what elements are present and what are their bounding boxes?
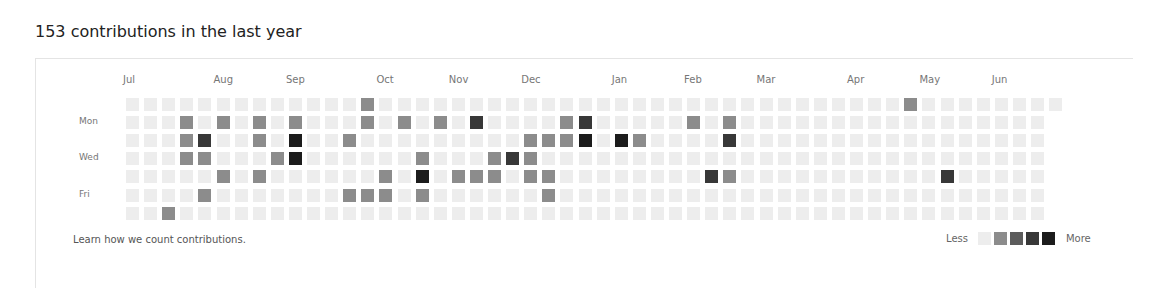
contribution-cell[interactable] <box>723 152 736 165</box>
contribution-cell[interactable] <box>524 189 537 202</box>
contribution-cell[interactable] <box>235 170 248 183</box>
contribution-cell[interactable] <box>579 152 592 165</box>
contribution-cell[interactable] <box>597 116 610 129</box>
contribution-cell[interactable] <box>144 116 157 129</box>
contribution-cell[interactable] <box>633 98 646 111</box>
contribution-cell[interactable] <box>687 189 700 202</box>
contribution-cell[interactable] <box>524 116 537 129</box>
contribution-cell[interactable] <box>760 207 773 220</box>
contribution-cell[interactable] <box>579 189 592 202</box>
contribution-cell[interactable] <box>850 98 863 111</box>
contribution-cell[interactable] <box>253 116 266 129</box>
contribution-cell[interactable] <box>253 134 266 147</box>
contribution-cell[interactable] <box>325 134 338 147</box>
contribution-cell[interactable] <box>651 116 664 129</box>
contribution-cell[interactable] <box>633 189 646 202</box>
contribution-cell[interactable] <box>922 116 935 129</box>
contribution-cell[interactable] <box>669 207 682 220</box>
contribution-cell[interactable] <box>904 134 917 147</box>
contribution-cell[interactable] <box>542 189 555 202</box>
contribution-cell[interactable] <box>977 98 990 111</box>
contribution-cell[interactable] <box>959 189 972 202</box>
contribution-cell[interactable] <box>977 116 990 129</box>
contribution-cell[interactable] <box>144 189 157 202</box>
contribution-cell[interactable] <box>633 170 646 183</box>
contribution-cell[interactable] <box>814 152 827 165</box>
contribution-cell[interactable] <box>796 207 809 220</box>
contribution-cell[interactable] <box>959 116 972 129</box>
contribution-cell[interactable] <box>416 189 429 202</box>
contribution-cell[interactable] <box>723 98 736 111</box>
contribution-cell[interactable] <box>398 170 411 183</box>
contribution-cell[interactable] <box>560 116 573 129</box>
contribution-cell[interactable] <box>434 207 447 220</box>
contribution-cell[interactable] <box>669 152 682 165</box>
contribution-cell[interactable] <box>289 98 302 111</box>
contribution-cell[interactable] <box>868 189 881 202</box>
contribution-cell[interactable] <box>741 98 754 111</box>
contribution-cell[interactable] <box>361 170 374 183</box>
contribution-cell[interactable] <box>506 134 519 147</box>
contribution-cell[interactable] <box>597 189 610 202</box>
contribution-cell[interactable] <box>687 152 700 165</box>
contribution-cell[interactable] <box>416 152 429 165</box>
contribution-cell[interactable] <box>995 189 1008 202</box>
contribution-cell[interactable] <box>470 189 483 202</box>
contribution-cell[interactable] <box>542 152 555 165</box>
contribution-cell[interactable] <box>615 207 628 220</box>
contribution-cell[interactable] <box>850 134 863 147</box>
contribution-cell[interactable] <box>524 207 537 220</box>
contribution-cell[interactable] <box>470 116 483 129</box>
contribution-cell[interactable] <box>633 152 646 165</box>
contribution-cell[interactable] <box>922 98 935 111</box>
contribution-cell[interactable] <box>253 207 266 220</box>
contribution-cell[interactable] <box>398 116 411 129</box>
contribution-cell[interactable] <box>126 98 139 111</box>
contribution-cell[interactable] <box>687 134 700 147</box>
contribution-cell[interactable] <box>850 152 863 165</box>
contribution-cell[interactable] <box>922 134 935 147</box>
contribution-cell[interactable] <box>741 189 754 202</box>
contribution-cell[interactable] <box>524 98 537 111</box>
contribution-cell[interactable] <box>253 170 266 183</box>
contribution-cell[interactable] <box>687 116 700 129</box>
contribution-cell[interactable] <box>832 134 845 147</box>
contribution-cell[interactable] <box>723 170 736 183</box>
contribution-cell[interactable] <box>760 170 773 183</box>
contribution-cell[interactable] <box>705 189 718 202</box>
contribution-cell[interactable] <box>832 152 845 165</box>
contribution-cell[interactable] <box>868 98 881 111</box>
contribution-cell[interactable] <box>235 207 248 220</box>
contribution-cell[interactable] <box>217 98 230 111</box>
contribution-cell[interactable] <box>579 134 592 147</box>
contribution-cell[interactable] <box>597 152 610 165</box>
contribution-cell[interactable] <box>126 152 139 165</box>
contribution-cell[interactable] <box>217 207 230 220</box>
contribution-cell[interactable] <box>416 170 429 183</box>
contribution-cell[interactable] <box>977 207 990 220</box>
contribution-cell[interactable] <box>669 98 682 111</box>
contribution-cell[interactable] <box>560 170 573 183</box>
contribution-cell[interactable] <box>452 189 465 202</box>
contribution-cell[interactable] <box>778 189 791 202</box>
contribution-cell[interactable] <box>180 170 193 183</box>
contribution-cell[interactable] <box>669 170 682 183</box>
contribution-cell[interactable] <box>814 116 827 129</box>
contribution-cell[interactable] <box>579 170 592 183</box>
contribution-cell[interactable] <box>850 189 863 202</box>
contribution-cell[interactable] <box>579 98 592 111</box>
contribution-cell[interactable] <box>977 189 990 202</box>
contribution-cell[interactable] <box>1013 189 1026 202</box>
contribution-cell[interactable] <box>470 170 483 183</box>
contribution-cell[interactable] <box>253 152 266 165</box>
contribution-cell[interactable] <box>126 207 139 220</box>
contribution-cell[interactable] <box>235 152 248 165</box>
contribution-cell[interactable] <box>416 134 429 147</box>
contribution-cell[interactable] <box>398 207 411 220</box>
contribution-cell[interactable] <box>778 152 791 165</box>
contribution-cell[interactable] <box>217 152 230 165</box>
contribution-cell[interactable] <box>796 170 809 183</box>
contribution-cell[interactable] <box>434 134 447 147</box>
contribution-cell[interactable] <box>325 189 338 202</box>
contribution-cell[interactable] <box>379 189 392 202</box>
